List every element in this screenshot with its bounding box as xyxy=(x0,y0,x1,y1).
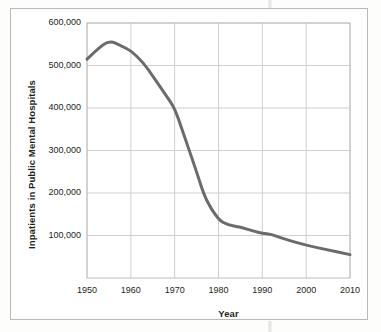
line-chart xyxy=(11,9,367,319)
x-tick-label: 1960 xyxy=(111,285,151,295)
x-tick-label: 2010 xyxy=(330,285,370,295)
x-tick-label: 2000 xyxy=(286,285,326,295)
y-axis-title: Inpatients in Public Mental Hospitals xyxy=(26,65,37,265)
x-axis-title: Year xyxy=(97,308,360,319)
x-tick-label: 1990 xyxy=(242,285,282,295)
scan-seam-artifact-bottom xyxy=(268,321,272,332)
x-tick-label: 1950 xyxy=(67,285,107,295)
y-tick-label: 600,000 xyxy=(21,17,81,27)
figure-container: 600,000500,000400,000300,000200,000100,0… xyxy=(10,8,368,320)
x-tick-label: 1980 xyxy=(199,285,239,295)
x-tick-label: 1970 xyxy=(155,285,195,295)
page-background: 600,000500,000400,000300,000200,000100,0… xyxy=(0,0,381,332)
